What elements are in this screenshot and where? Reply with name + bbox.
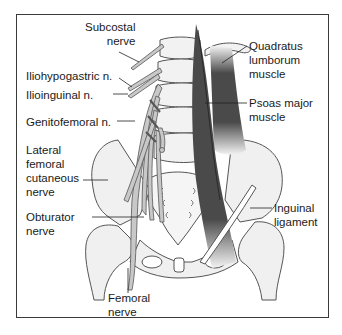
label-subcostal-nerve: Subcostal nerve xyxy=(85,20,136,48)
label-femoral-nerve: Femoral nerve xyxy=(108,291,150,319)
label-quadratus-lumborum-muscle: Quadratus lumborum muscle xyxy=(249,39,303,81)
label-iliohypogastric-nerve: Iliohypogastric n. xyxy=(26,69,112,83)
label-inguinal-ligament: Inguinal ligament xyxy=(274,201,317,229)
label-lateral-femoral-cutaneous-nerve: Lateral femoral cutaneous nerve xyxy=(26,143,79,199)
label-ilioinguinal-nerve: Ilioinguinal n. xyxy=(26,88,93,102)
label-genitofemoral-nerve: Genitofemoral n. xyxy=(26,115,111,129)
label-psoas-major-muscle: Psoas major muscle xyxy=(249,96,313,124)
quadratus-lumborum-muscle xyxy=(210,46,246,155)
label-obturator-nerve: Obturator nerve xyxy=(26,210,75,238)
